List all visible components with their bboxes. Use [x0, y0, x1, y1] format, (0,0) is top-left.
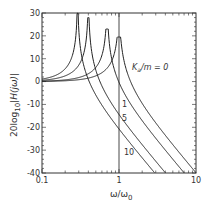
x-tick-label: 1 — [116, 176, 121, 185]
y-tick-label: 10 — [30, 55, 40, 64]
x-axis-label: ω/ω0 — [110, 189, 133, 202]
y-tick-label: 30 — [30, 9, 40, 18]
curve-label-k1: 1 — [122, 100, 127, 109]
curve-label-k10: 10 — [124, 148, 134, 157]
y-tick-label: 20 — [30, 32, 40, 41]
x-tick-label: 10 — [191, 176, 201, 185]
bode-magnitude-chart: 30 20 10 0 -10 -20 -30 -40 0.1 1 10 ω/ω0… — [0, 0, 208, 206]
curve-label-k5: 5 — [122, 114, 127, 123]
y-tick-label: -10 — [27, 100, 40, 109]
y-tick-label: -30 — [27, 146, 40, 155]
frequency-response-curve — [42, 18, 165, 173]
y-tick-labels: 30 20 10 0 -10 -20 -30 -40 — [27, 9, 40, 178]
y-tick-label: -20 — [27, 123, 40, 132]
frequency-response-curve — [42, 13, 154, 173]
y-tick-label: 0 — [35, 77, 40, 86]
x-tick-label: 0.1 — [36, 176, 49, 185]
y-axis-label: 20log10|H(jω)| — [9, 73, 22, 137]
x-tick-labels: 0.1 1 10 — [36, 176, 201, 185]
frequency-response-curve — [42, 29, 184, 173]
curve-label-k0: Ka/m = 0 — [132, 63, 168, 73]
